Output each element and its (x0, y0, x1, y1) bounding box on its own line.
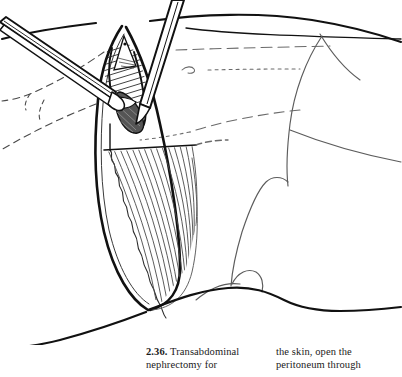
body-outline (2, 15, 401, 42)
surgical-illustration (0, 0, 402, 345)
dashed-landmarks-right (140, 46, 330, 140)
internal-contours (196, 34, 401, 300)
caption-right-line-1: the skin, open the (276, 345, 402, 358)
caption-left-line-2: nephrectomy for (146, 358, 274, 371)
figure-page: 2.36. Transabdominal nephrectomy for the… (0, 0, 402, 377)
figure-caption: 2.36. Transabdominal nephrectomy for the… (0, 343, 402, 377)
caption-column-left: 2.36. Transabdominal nephrectomy for (146, 345, 274, 371)
muscle-block-divider (104, 145, 196, 150)
caption-right-line-2: peritoneum through (276, 358, 402, 371)
illustration-svg (0, 0, 402, 345)
caption-left-line-1-text: Transabdominal (168, 346, 240, 357)
figure-number: 2.36. (146, 346, 168, 357)
caption-column-right: the skin, open the peritoneum through (276, 345, 402, 371)
caption-left-line-1: 2.36. Transabdominal (146, 345, 274, 358)
flank-ridge-line (186, 28, 401, 39)
